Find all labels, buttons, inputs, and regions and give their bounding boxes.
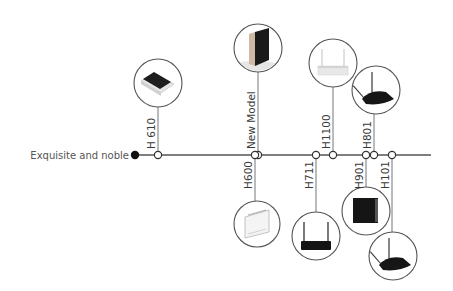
product-image-frame[interactable] — [292, 212, 340, 260]
timeline-items: H 610New ModelH600H711H1100H901H801H101 — [134, 24, 417, 280]
timeline-item-label: H600 — [242, 161, 254, 189]
timeline-item-label: H801 — [361, 121, 373, 149]
timeline-node[interactable] — [370, 151, 377, 158]
timeline-item-label: H1100 — [320, 114, 332, 149]
timeline-item-h711[interactable]: H711 — [292, 151, 340, 260]
timeline-node[interactable] — [362, 151, 369, 158]
timeline-item-label: H901 — [353, 161, 365, 189]
timeline-node[interactable] — [312, 151, 319, 158]
timeline-item-h600[interactable]: H600 — [234, 151, 280, 247]
timeline-item-label: H711 — [303, 161, 315, 189]
timeline-item-label: H101 — [379, 161, 391, 189]
timeline-item-h1100[interactable]: H1100 — [309, 39, 357, 159]
timeline-node[interactable] — [388, 151, 395, 158]
product-image-frame[interactable] — [352, 66, 400, 114]
timeline-item-new-model[interactable]: New Model — [228, 24, 282, 159]
timeline-item-h801[interactable]: H801 — [350, 66, 400, 159]
timeline-start-dot — [131, 151, 139, 159]
timeline-diagram: Exquisite and noble H 610New ModelH600H7… — [0, 0, 453, 291]
timeline-item-label: H 610 — [145, 118, 157, 149]
timeline-node[interactable] — [154, 151, 161, 158]
timeline-item-h610[interactable]: H 610 — [134, 59, 182, 159]
product-image-frame[interactable] — [309, 39, 357, 87]
product-image-frame[interactable] — [369, 232, 417, 280]
timeline-node[interactable] — [329, 151, 336, 158]
black-square-box-icon — [353, 198, 378, 223]
timeline-node[interactable] — [251, 151, 258, 158]
timeline-item-label: New Model — [245, 91, 257, 149]
timeline-start-label: Exquisite and noble — [30, 150, 129, 161]
